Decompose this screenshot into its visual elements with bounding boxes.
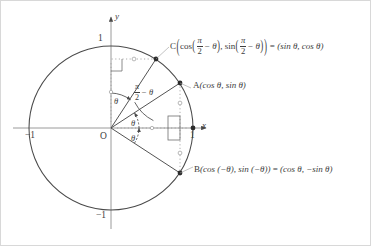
point-B-equals: = — [273, 164, 278, 174]
point-B-result: (cos θ, −sin θ) — [280, 164, 332, 174]
point-C-name: C — [170, 41, 176, 51]
arc-complement-angle — [135, 102, 154, 120]
leader-line-C — [156, 47, 169, 59]
angle-label-theta-below-x-axis: θ — [131, 134, 135, 143]
point-C-comma: , — [220, 41, 222, 51]
point-label-B: B(cos (−θ), sin (−θ)) = (cos θ, −sin θ) — [194, 165, 333, 174]
point-B-expression: (cos (−θ), sin (−θ)) — [200, 164, 270, 174]
point-C-close-paren: ) — [264, 37, 267, 55]
x-axis-label: x — [202, 121, 206, 130]
point-label-A: A(cos θ, sin θ) — [193, 81, 246, 90]
unit-circle-figure: y x O 1 −1 −1 1 θ π 2 − θ θ θ C(cos(π2− … — [0, 0, 371, 246]
point-C-cos-frac-num: π — [197, 36, 203, 46]
point-label-C: C(cos(π2− θ), sin(π2− θ)) = (sin θ, cos … — [170, 37, 323, 56]
open-marker-y-midpoint — [109, 90, 112, 93]
angle-label-theta-above-x-axis: θ — [131, 119, 135, 128]
point-C-cos-minus-theta: − θ — [204, 41, 217, 51]
tick-x-negative-one: −1 — [25, 131, 35, 141]
point-C-sin-frac-num: π — [240, 36, 246, 46]
complement-denominator: 2 — [134, 93, 140, 102]
point-C-sin-inner-close: ) — [260, 39, 263, 53]
open-marker-A-lower — [178, 151, 182, 155]
complement-fraction: π 2 — [134, 83, 140, 101]
right-angle-marker-y-axis — [111, 59, 122, 71]
point-C-open-paren: ( — [177, 37, 180, 55]
open-marker-A-upper — [178, 101, 182, 105]
point-C-cos-inner-close: ) — [217, 39, 220, 53]
point-C-sin-frac-den: 2 — [240, 47, 246, 56]
tick-y-negative-one: −1 — [96, 211, 106, 221]
point-C-sin-fn: sin — [225, 41, 236, 51]
tick-y-positive-one: 1 — [98, 34, 103, 44]
point-C-cos-inner-open: ( — [192, 39, 195, 53]
point-C-sin-inner-open: ( — [236, 39, 239, 53]
point-C-equals: = — [270, 41, 275, 51]
point-A-expression: (cos θ, sin θ) — [200, 80, 246, 90]
point-C-cos-frac-den: 2 — [197, 47, 203, 56]
complement-minus-theta: − θ — [141, 87, 153, 97]
tick-x-positive-one: 1 — [190, 131, 195, 141]
point-C-sin-minus-theta: − θ — [247, 41, 260, 51]
radius-OB — [111, 128, 180, 173]
complement-numerator: π — [134, 83, 140, 93]
origin-label: O — [100, 132, 107, 142]
point-C-cos-fraction: π2 — [197, 36, 203, 55]
angle-label-theta-from-y-axis: θ — [114, 97, 118, 106]
open-marker-x-midpoint — [150, 126, 153, 129]
angle-label-complement: π 2 − θ — [133, 84, 153, 102]
point-C-cos-fn: cos — [180, 41, 192, 51]
y-axis-label: y — [115, 12, 119, 21]
point-C-sin-fraction: π2 — [240, 36, 246, 55]
point-C-result: (sin θ, cos θ) — [277, 41, 323, 51]
open-marker-C-projection — [132, 57, 136, 61]
